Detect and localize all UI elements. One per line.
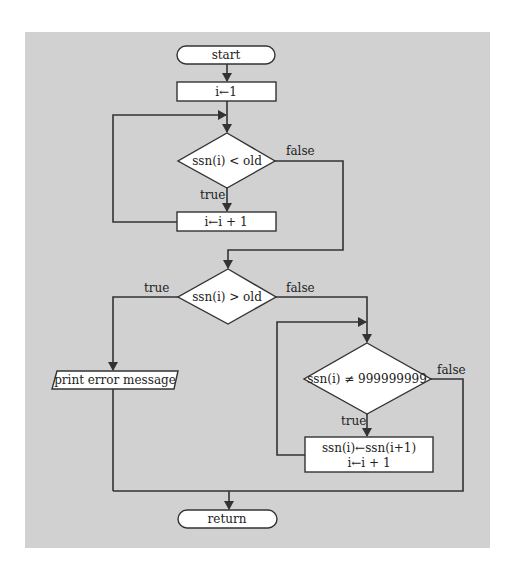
- edge-cond2-true: [113, 297, 178, 370]
- error-label: print error message: [54, 373, 176, 387]
- cond1-false-label: false: [286, 144, 315, 158]
- node-error: print error message: [52, 371, 178, 389]
- cond3-label: ssn(i) ≠ 999999999: [307, 372, 427, 386]
- node-cond2: ssn(i) > old: [178, 269, 276, 324]
- cond2-label: ssn(i) > old: [192, 290, 262, 304]
- edge-cond3-false: [113, 379, 463, 491]
- cond3-true-label: true: [341, 414, 366, 428]
- node-shift: ssn(i)←ssn(i+1) i←i + 1: [305, 437, 433, 472]
- edge-cond2-false: [276, 297, 367, 342]
- flowchart: start i←1 ssn(i) < old i←i + 1 ssn(i) > …: [0, 0, 514, 578]
- cond2-false-label: false: [286, 281, 315, 295]
- init-label: i←1: [215, 85, 237, 99]
- cond2-true-label: true: [144, 281, 169, 295]
- start-label: start: [212, 48, 241, 62]
- return-label: return: [208, 512, 247, 526]
- cond1-true-label: true: [200, 188, 225, 202]
- node-return: return: [178, 510, 277, 528]
- node-start: start: [177, 46, 275, 64]
- node-cond3: ssn(i) ≠ 999999999: [304, 343, 431, 414]
- cond1-label: ssn(i) < old: [192, 154, 262, 168]
- cond3-false-label: false: [437, 363, 466, 377]
- node-incr1: i←i + 1: [177, 212, 276, 231]
- shift-label-line2: i←i + 1: [347, 456, 390, 470]
- incr1-label: i←i + 1: [204, 215, 247, 229]
- node-init: i←1: [177, 82, 276, 101]
- shift-label-line1: ssn(i)←ssn(i+1): [322, 441, 416, 455]
- node-cond1: ssn(i) < old: [178, 133, 275, 188]
